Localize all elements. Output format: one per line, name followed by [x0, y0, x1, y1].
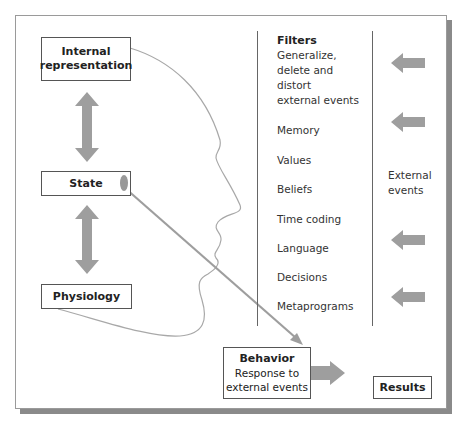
filter-item-time-coding: Time coding — [277, 212, 341, 227]
physiology-box: Physiology — [41, 284, 132, 309]
filter-item-decisions: Decisions — [277, 270, 327, 285]
filter-item-language: Language — [277, 241, 329, 256]
behavior-line2: external events — [226, 380, 308, 394]
filters-block: Filters Generalize, delete and distort e… — [277, 33, 359, 108]
physiology-label: Physiology — [53, 290, 120, 304]
filters-description-3: distort — [277, 78, 359, 93]
results-label: Results — [380, 381, 426, 395]
behavior-line1: Response to — [235, 366, 299, 380]
behavior-box: Behavior Response to external events — [223, 347, 311, 399]
behavior-title: Behavior — [239, 352, 294, 366]
filters-title: Filters — [277, 33, 359, 48]
results-box: Results — [373, 376, 432, 399]
filter-item-memory: Memory — [277, 123, 320, 138]
filter-item-metaprograms: Metaprograms — [277, 299, 353, 314]
external-events-line1: External — [388, 168, 432, 183]
filters-description-4: external events — [277, 93, 359, 108]
external-events-line2: events — [388, 183, 432, 198]
filter-item-values: Values — [277, 153, 311, 168]
external-events-label: External events — [388, 168, 432, 198]
state-marker-icon — [120, 175, 128, 191]
filters-description-1: Generalize, — [277, 48, 359, 63]
filter-item-beliefs: Beliefs — [277, 182, 312, 197]
filters-description-2: delete and — [277, 63, 359, 78]
